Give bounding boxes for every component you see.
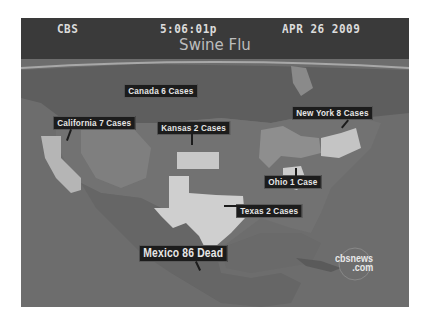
broadcast-date: APR 26 2009 <box>282 22 360 36</box>
label-mexico: Mexico 86 Dead <box>139 245 227 262</box>
network-name: CBS <box>57 22 78 36</box>
label-texas: Texas 2 Cases <box>236 204 303 218</box>
pointer-kansas <box>191 134 193 145</box>
label-canada: Canada 6 Cases <box>124 84 198 98</box>
cbsnews-watermark: cbsnews .com <box>335 254 373 272</box>
label-ohio: Ohio 1 Case <box>264 175 322 189</box>
label-new-york: New York 8 Cases <box>292 106 373 120</box>
state-kansas <box>177 152 219 169</box>
broadcast-header-bar: CBS 5:06:01p APR 26 2009 Swine Flu <box>21 18 409 59</box>
segment-title: Swine Flu <box>21 36 409 54</box>
news-broadcast-frame: CBS 5:06:01p APR 26 2009 Swine Flu Canad… <box>21 18 409 307</box>
pointer-texas <box>224 205 237 207</box>
broadcast-time: 5:06:01p <box>160 22 217 36</box>
watermark-line2: .com <box>335 263 373 272</box>
label-california: California 7 Cases <box>53 116 136 130</box>
label-kansas: Kansas 2 Cases <box>157 121 230 135</box>
pointer-ohio <box>295 168 297 176</box>
